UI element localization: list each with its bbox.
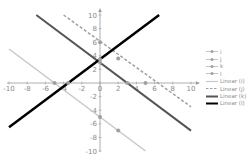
legend-item: Linear (i) xyxy=(206,78,246,85)
legend: ijklLinear (i)Linear (j)Linear (k)Linear… xyxy=(206,48,246,107)
y-tick-label: 10 xyxy=(88,12,97,20)
x-tick-label: 10 xyxy=(187,85,196,93)
y-tick-label: -8 xyxy=(90,134,97,142)
axes: -10-8-6-4-20246810108642-2-4-6-8-10 xyxy=(3,8,200,155)
trendline xyxy=(36,15,191,131)
y-tick-label: -6 xyxy=(90,120,98,128)
data-point xyxy=(116,57,120,61)
legend-label: l xyxy=(220,71,222,77)
legend-item: Linear (j) xyxy=(206,85,246,92)
legend-label: Linear (l) xyxy=(220,100,245,106)
legend-label: i xyxy=(220,49,222,55)
trendline xyxy=(9,15,159,127)
y-tick-label: 8 xyxy=(93,25,97,33)
legend-line-icon xyxy=(206,78,218,85)
legend-marker-icon xyxy=(206,56,218,63)
data-point xyxy=(66,81,70,85)
legend-label: Linear (k) xyxy=(220,93,246,99)
data-point xyxy=(53,81,57,85)
data-point xyxy=(98,57,102,61)
legend-label: k xyxy=(220,63,223,69)
x-tick-label: -8 xyxy=(24,85,31,93)
legend-item: l xyxy=(206,70,246,77)
legend-item: i xyxy=(206,48,246,55)
legend-marker-icon xyxy=(206,48,218,55)
data-point xyxy=(98,40,102,44)
legend-item: j xyxy=(206,55,246,62)
legend-line-icon xyxy=(206,100,218,107)
legend-line-icon xyxy=(206,85,218,92)
x-tick-label: 6 xyxy=(152,85,157,93)
x-tick-label: -6 xyxy=(42,85,50,93)
x-tick-label: 0 xyxy=(98,85,102,93)
legend-label: Linear (j) xyxy=(220,86,245,92)
data-point xyxy=(144,81,148,85)
x-tick-label: -2 xyxy=(78,85,85,93)
legend-item: Linear (k) xyxy=(206,92,246,99)
trendline xyxy=(9,49,146,151)
data-point xyxy=(116,129,120,133)
y-tick-label: -2 xyxy=(90,93,97,101)
data-point xyxy=(125,81,129,85)
legend-marker-icon xyxy=(206,63,218,70)
legend-line-icon xyxy=(206,93,218,100)
y-tick-label: 6 xyxy=(93,39,98,47)
y-axis-arrow-icon xyxy=(98,8,102,12)
y-tick-label: 2 xyxy=(93,66,97,74)
x-axis-arrow-icon xyxy=(196,81,200,85)
x-tick-label: 2 xyxy=(116,85,120,93)
legend-marker-icon xyxy=(206,70,218,77)
legend-label: Linear (i) xyxy=(220,78,245,84)
x-tick-label: -10 xyxy=(3,85,14,93)
y-tick-label: -10 xyxy=(86,148,97,156)
legend-item: k xyxy=(206,63,246,70)
legend-item: Linear (l) xyxy=(206,100,246,107)
legend-label: j xyxy=(220,56,222,62)
trendline xyxy=(64,15,191,107)
data-point xyxy=(98,115,102,119)
